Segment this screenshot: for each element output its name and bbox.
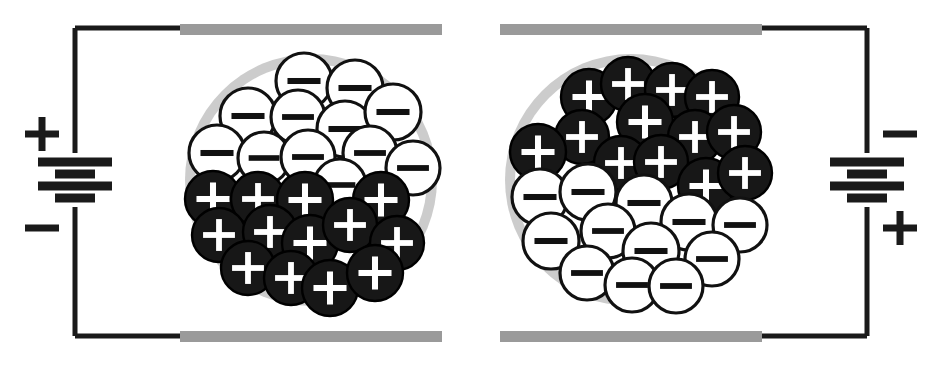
minus-sign-icon [696, 256, 728, 262]
minus-sign-icon [660, 283, 692, 289]
plus-sign-icon-v [288, 262, 294, 294]
battery-plate-2 [55, 170, 95, 179]
plus-sign-icon-v [579, 121, 585, 153]
minus-sign-icon [724, 222, 756, 228]
battery-plate-1 [38, 158, 112, 167]
minus-sign-icon [200, 150, 233, 156]
plus-sign-icon-v [245, 252, 251, 284]
bottom-electrode-left [180, 331, 442, 342]
minus-sign-icon [376, 109, 409, 115]
plus-sign-icon-v [642, 105, 648, 138]
negative-terminal-label-right-panel-h [883, 131, 917, 138]
minus-sign-icon [523, 194, 556, 200]
plus-sign-icon-v [307, 226, 313, 259]
minus-sign-icon [571, 270, 603, 276]
plus-sign-icon-v [731, 116, 737, 148]
positive-terminal-label-left-panel [25, 117, 59, 151]
minus-sign-icon [292, 154, 324, 160]
plus-sign-icon-v [347, 209, 353, 241]
plus-sign-icon-v [267, 216, 273, 248]
minus-sign-icon [672, 219, 705, 225]
positive-terminal-label-bottom-right-panel [883, 211, 917, 245]
minus-sign-icon [282, 114, 314, 120]
negative-terminal-label-right-panel [883, 131, 917, 138]
plus-sign-icon-v [535, 135, 541, 168]
minus-sign-icon [249, 155, 280, 161]
plus-sign-icon-v [669, 74, 675, 106]
minus-sign-icon [634, 248, 667, 254]
minus-sign-icon [616, 282, 648, 288]
positively-charged-black-pigment-left-panel-24 [347, 245, 403, 301]
plus-sign-icon-v [216, 219, 222, 251]
positive-terminal-label-bottom-right-panel-v [897, 211, 904, 245]
minus-sign-icon [592, 228, 624, 234]
battery-plate-3 [830, 182, 904, 191]
battery-right [830, 131, 917, 246]
top-electrode-right [500, 24, 762, 35]
positive-terminal-label-left-panel-v [39, 117, 46, 151]
negative-terminal-label-bottom-left-panel-h [25, 225, 59, 232]
batteries-layer [25, 117, 917, 245]
plus-sign-icon-v [692, 121, 698, 153]
minus-sign-icon [397, 165, 429, 171]
top-electrode-left [180, 24, 442, 35]
minus-sign-icon [231, 113, 264, 119]
plus-sign-icon-v [378, 183, 384, 216]
battery-plate-4 [847, 194, 887, 203]
minus-sign-icon [534, 238, 567, 244]
plus-sign-icon-v [709, 81, 715, 113]
plus-sign-icon-v [742, 157, 748, 189]
electrophoretic-display-figure: Electrophoretic display microcapsule und… [0, 0, 942, 365]
minus-sign-icon [338, 85, 371, 91]
plus-sign-icon-v [658, 146, 664, 178]
plus-sign-icon-v [302, 183, 308, 216]
battery-plate-3 [38, 182, 112, 191]
diagram-canvas: Electrophoretic display microcapsule und… [0, 0, 942, 365]
bottom-electrode-right [500, 331, 762, 342]
negatively-charged-white-pigment-right-panel-24 [649, 259, 703, 313]
positively-charged-black-pigment-right-panel-12 [718, 146, 772, 200]
plus-sign-icon-v [327, 271, 333, 304]
battery-plate-4 [55, 194, 95, 203]
minus-sign-icon [627, 200, 660, 206]
plus-sign-icon-v [372, 256, 378, 289]
plus-sign-icon-v [586, 80, 592, 113]
minus-sign-icon [354, 150, 386, 156]
plus-sign-icon-v [618, 147, 624, 179]
battery-plate-2 [847, 170, 887, 179]
plus-sign-icon-v [625, 68, 631, 100]
negative-terminal-label-bottom-left-panel [25, 225, 59, 232]
minus-sign-icon [287, 78, 320, 84]
battery-left [25, 117, 112, 232]
battery-plate-1 [830, 158, 904, 167]
minus-sign-icon [571, 189, 604, 195]
